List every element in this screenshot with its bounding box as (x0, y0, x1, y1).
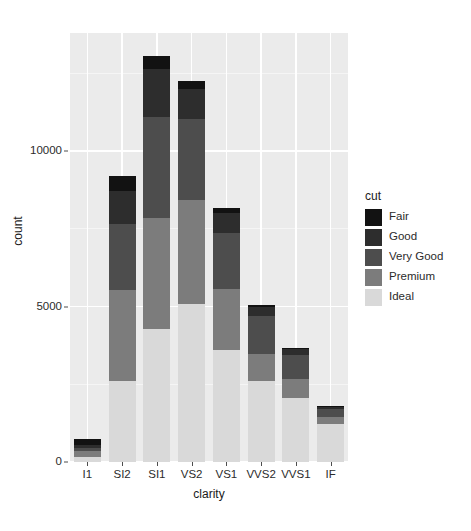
x-axis-tick-label: SI2 (113, 468, 130, 481)
bar-segment[interactable] (317, 409, 344, 417)
bar-segment[interactable] (109, 176, 136, 190)
y-axis-tick-label: 0 (18, 456, 62, 468)
bar-segment[interactable] (282, 379, 309, 398)
bar-stack[interactable] (109, 33, 136, 462)
bar-segment[interactable] (213, 289, 240, 351)
bar-segment[interactable] (178, 119, 205, 200)
x-axis-tick-label: I1 (83, 468, 93, 481)
bar-segment[interactable] (282, 355, 309, 380)
legend-item-label: Very Good (389, 251, 443, 263)
bar-segment[interactable] (109, 224, 136, 289)
legend-swatch-icon (365, 289, 382, 306)
y-axis-tick-mark (64, 306, 68, 307)
bar-segment[interactable] (317, 417, 344, 424)
bar-segment[interactable] (109, 290, 136, 382)
legend-item[interactable]: Good (365, 227, 469, 247)
legend-item-label: Premium (389, 271, 435, 283)
bar-segment[interactable] (74, 439, 101, 446)
bar-segment[interactable] (213, 233, 240, 288)
x-axis-tick-mark (261, 462, 262, 466)
bar-segment[interactable] (143, 117, 170, 218)
y-axis-tick-label: 5000 (18, 301, 62, 313)
legend: cut FairGoodVery GoodPremiumIdeal (365, 190, 469, 307)
bar-segment[interactable] (74, 451, 101, 457)
y-axis-tick-mark (64, 151, 68, 152)
chart-plot-root: count 0500010000 I1SI2SI1VS2VS1VVS2VVS1I… (0, 0, 471, 531)
bar-segment[interactable] (317, 407, 344, 409)
bar-segment[interactable] (248, 381, 275, 462)
bar-segment[interactable] (248, 305, 275, 307)
bar-segment[interactable] (317, 424, 344, 462)
legend-item[interactable]: Fair (365, 207, 469, 227)
bar-segment[interactable] (248, 307, 275, 316)
legend-item[interactable]: Ideal (365, 287, 469, 307)
bar-stack[interactable] (248, 33, 275, 462)
legend-swatch-icon (365, 229, 382, 246)
bar-segment[interactable] (143, 69, 170, 117)
x-axis-tick-mark (87, 462, 88, 466)
legend-items: FairGoodVery GoodPremiumIdeal (365, 207, 469, 307)
bar-stack[interactable] (74, 33, 101, 462)
x-axis-tick-mark (331, 462, 332, 466)
bar-stack[interactable] (282, 33, 309, 462)
x-axis-tick-label: SI1 (148, 468, 165, 481)
x-axis-tick-mark (226, 462, 227, 466)
bar-stack[interactable] (178, 33, 205, 462)
legend-swatch-icon (365, 249, 382, 266)
bar-segment[interactable] (213, 208, 240, 213)
legend-swatch-icon (365, 269, 382, 286)
x-axis-tick-mark (192, 462, 193, 466)
legend-swatch-icon (365, 209, 382, 226)
bar-segment[interactable] (248, 354, 275, 381)
bar-segment[interactable] (143, 218, 170, 329)
legend-item[interactable]: Premium (365, 267, 469, 287)
bar-segment[interactable] (248, 316, 275, 354)
bar-segment[interactable] (178, 304, 205, 462)
y-axis-tick-labels: 0500010000 (14, 0, 62, 462)
bar-segment[interactable] (109, 381, 136, 462)
bar-stack[interactable] (143, 33, 170, 462)
x-axis-tick-mark (122, 462, 123, 466)
legend-item[interactable]: Very Good (365, 247, 469, 267)
bar-stack[interactable] (213, 33, 240, 462)
x-axis-title: clarity (70, 487, 348, 501)
bar-segment[interactable] (74, 448, 101, 451)
bar-segment[interactable] (213, 213, 240, 233)
bar-segment[interactable] (109, 191, 136, 225)
bar-segment[interactable] (213, 350, 240, 462)
x-axis-tick-label: VVS1 (281, 468, 310, 481)
bar-segment[interactable] (282, 398, 309, 462)
x-axis-tick-label: VS2 (181, 468, 203, 481)
bar-stack[interactable] (317, 33, 344, 462)
bar-segment[interactable] (178, 89, 205, 119)
bar-segment[interactable] (143, 329, 170, 462)
x-axis-tick-label: IF (326, 468, 336, 481)
legend-item-label: Fair (389, 211, 409, 223)
y-axis-tick-mark (64, 462, 68, 463)
y-axis-tick-label: 10000 (18, 145, 62, 157)
bar-segment[interactable] (282, 349, 309, 355)
x-axis-tick-mark (296, 462, 297, 466)
bar-segment[interactable] (143, 56, 170, 69)
x-axis-tick-labels: I1SI2SI1VS2VS1VVS2VVS1IF (70, 462, 348, 488)
bar-segment[interactable] (282, 348, 309, 349)
bar-segment[interactable] (74, 445, 101, 448)
legend-title: cut (365, 190, 469, 202)
x-axis-tick-label: VVS2 (246, 468, 275, 481)
bar-segment[interactable] (178, 81, 205, 89)
bar-segment[interactable] (178, 200, 205, 304)
x-axis-tick-label: VS1 (216, 468, 238, 481)
x-axis-tick-mark (157, 462, 158, 466)
legend-item-label: Ideal (389, 291, 414, 303)
legend-item-label: Good (389, 231, 417, 243)
plot-panel (70, 33, 348, 462)
x-axis-title-text: clarity (193, 487, 224, 501)
